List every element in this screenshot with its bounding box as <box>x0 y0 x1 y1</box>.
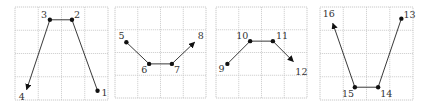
panel-2: 5678 <box>115 7 206 98</box>
point-label: 3 <box>41 9 47 20</box>
point-label: 4 <box>19 91 25 102</box>
panel-4: 13141516 <box>320 7 415 100</box>
point-label: 15 <box>342 88 354 99</box>
point-label: 6 <box>141 64 147 75</box>
point-dot-icon <box>248 39 252 43</box>
point-dot-icon <box>225 62 229 66</box>
point-label: 1 <box>102 87 108 98</box>
panel-3: 9101112 <box>216 7 307 98</box>
point-label: 14 <box>380 88 392 99</box>
panel-1: 1234 <box>15 7 108 102</box>
path-segment <box>378 19 401 88</box>
point-dot-icon <box>124 40 128 44</box>
point-dot-icon <box>48 18 52 22</box>
grid-border <box>115 7 206 98</box>
path-segment <box>273 41 293 61</box>
grid-border <box>216 7 307 98</box>
point-label: 10 <box>236 30 248 41</box>
path-segment <box>333 23 355 87</box>
point-label: 16 <box>323 8 335 19</box>
path-diagram: 12345678910111213141516 <box>0 0 425 106</box>
point-label: 8 <box>198 30 204 41</box>
point-dot-icon <box>95 89 99 93</box>
point-label: 9 <box>218 63 224 74</box>
point-label: 7 <box>174 64 180 75</box>
point-dot-icon <box>147 62 151 66</box>
point-label: 12 <box>295 66 307 77</box>
point-label: 13 <box>403 9 415 20</box>
point-label: 2 <box>74 9 80 20</box>
point-dot-icon <box>271 39 275 43</box>
point-label: 5 <box>118 30 124 41</box>
point-label: 11 <box>276 30 288 41</box>
